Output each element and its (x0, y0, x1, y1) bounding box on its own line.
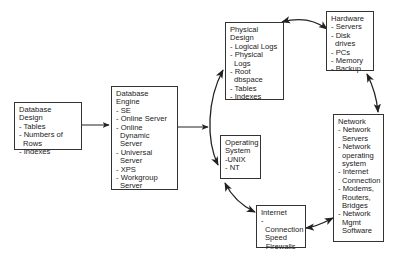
node-network: Network - Network Servers - Network oper… (333, 114, 384, 242)
node-title: Database Design (19, 106, 77, 123)
node-title: Database Engine (116, 90, 173, 107)
node-item: - Numbers of Rows (19, 131, 77, 148)
node-item: - Backup (331, 65, 369, 73)
node-database-design: Database Design - Tables - Numbers of Ro… (14, 102, 82, 150)
node-item: - Physical Logs (230, 51, 279, 68)
node-item: - NT (225, 164, 256, 172)
node-item: - Network Servers (338, 126, 379, 143)
node-item: - Firewalls (261, 243, 301, 251)
node-title: Operating System (225, 139, 256, 156)
node-item: - Universal Server (116, 149, 173, 166)
node-internet: Internet - Connection Speed - Firewalls (256, 205, 306, 248)
node-items: - Logical Logs - Physical Logs - Root db… (230, 43, 279, 102)
arc-network-internet (306, 218, 333, 228)
arc-hardware-network (367, 74, 378, 112)
diagram-canvas: Database Design - Tables - Numbers of Ro… (0, 0, 394, 261)
node-item: - Modems, Routers, Bridges (338, 185, 379, 210)
node-operating-system: Operating System -UNIX - NT (220, 135, 261, 179)
node-items: - Tables - Numbers of Rows - Indexes (19, 123, 77, 157)
node-item: - Indexes (19, 148, 77, 156)
node-database-engine: Database Engine - SE - Online Server - O… (111, 86, 178, 190)
node-title: Physical Design (230, 26, 279, 43)
node-item: - Network operating system (338, 143, 379, 168)
node-items: - Network Servers - Network operating sy… (338, 126, 379, 235)
node-item: - Connection Speed (261, 217, 301, 242)
node-physical-design: Physical Design - Logical Logs - Physica… (225, 22, 284, 100)
node-title: Internet (261, 209, 301, 217)
node-item: - Indexes (230, 93, 279, 101)
arc-internet-os (225, 183, 255, 212)
node-items: - Servers - Disk drives - PCs - Memory -… (331, 23, 369, 73)
node-items: -UNIX - NT (225, 156, 256, 173)
node-item: - Online Dynamic Server (116, 124, 173, 149)
node-hardware: Hardware - Servers - Disk drives - PCs -… (326, 11, 374, 71)
node-items: - Connection Speed - Firewalls (261, 217, 301, 251)
node-item: - Root dbspace (230, 68, 279, 85)
node-items: - SE - Online Server - Online Dynamic Se… (116, 107, 173, 191)
node-item: - Disk drives (331, 32, 369, 49)
arc-physical-design-hardware (282, 20, 327, 29)
node-item: - Internet Connection (338, 168, 379, 185)
node-item: - Network Mgmt Software (338, 210, 379, 235)
node-item: - Workgroup Server (116, 174, 173, 191)
